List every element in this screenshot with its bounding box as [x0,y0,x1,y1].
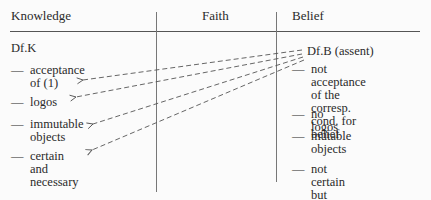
arrow-to-immutable [93,57,303,124]
arrow-to-acceptance [83,50,302,80]
arrows-layer [0,0,431,200]
arrow-to-logos [76,54,302,97]
